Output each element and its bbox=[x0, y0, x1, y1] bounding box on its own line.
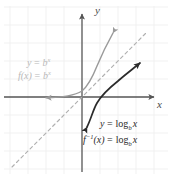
exp-label2-exponent: x bbox=[48, 69, 51, 76]
loginv-label-eq: = bbox=[107, 134, 113, 145]
log-label-arg: x bbox=[133, 118, 137, 129]
exp-label-exponent: x bbox=[48, 56, 51, 63]
log-label-eq: = bbox=[107, 118, 113, 129]
exp-label-lhs: y bbox=[27, 57, 31, 68]
y-axis-label: y bbox=[95, 5, 100, 16]
grid-lines bbox=[4, 6, 168, 174]
log-label-lhs: y bbox=[100, 118, 104, 129]
exp-label2-eq: = bbox=[34, 70, 40, 81]
label-logarithmic-inverse: f−1(x) = logbx bbox=[83, 134, 137, 148]
log-label-fn: log bbox=[116, 118, 129, 129]
loginv-label-base: b bbox=[128, 140, 131, 147]
label-exponential-fx: f(x) = bx bbox=[18, 70, 51, 82]
log-label-base: b bbox=[128, 124, 131, 131]
math-figure: y x y = bx f(x) = bx y = logbx f−1(x) = … bbox=[0, 0, 172, 179]
exp-label-eq: = bbox=[34, 57, 40, 68]
loginv-label-fn: log bbox=[116, 134, 129, 145]
x-axis-label: x bbox=[157, 99, 162, 110]
figure-canvas bbox=[0, 0, 172, 179]
loginv-label-arg-paren: (x) bbox=[93, 134, 104, 145]
label-exponential-y: y = bx bbox=[27, 57, 50, 69]
label-logarithmic-y: y = logbx bbox=[100, 119, 137, 132]
loginv-label-arg: x bbox=[133, 134, 137, 145]
exp-label2-lhs: f(x) bbox=[18, 70, 32, 81]
